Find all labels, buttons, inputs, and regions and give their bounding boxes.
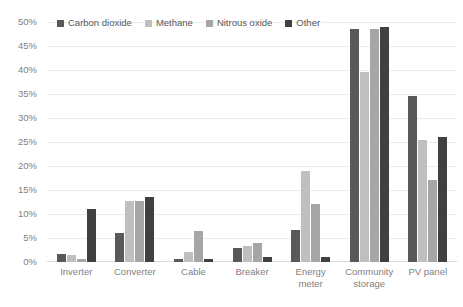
bar[interactable] bbox=[243, 246, 252, 262]
bar[interactable] bbox=[253, 243, 262, 262]
x-axis: InverterConverterCableBreakerEnergymeter… bbox=[47, 266, 457, 306]
bar[interactable] bbox=[428, 180, 437, 262]
y-axis: 50%45%40%35%30%25%20%15%10%5%0% bbox=[0, 22, 42, 262]
bar[interactable] bbox=[263, 257, 272, 262]
y-axis-tick-label: 30% bbox=[18, 113, 37, 123]
x-axis-label-line: Inverter bbox=[48, 266, 105, 278]
bar[interactable] bbox=[291, 230, 300, 262]
x-axis-tick-label: Communitystorage bbox=[340, 266, 399, 306]
x-axis-label-line: storage bbox=[341, 278, 398, 290]
bar[interactable] bbox=[350, 29, 359, 262]
x-axis-label-line: Breaker bbox=[224, 266, 281, 278]
bar[interactable] bbox=[194, 231, 203, 262]
y-axis-tick-label: 35% bbox=[18, 89, 37, 99]
x-axis-label-line: Cable bbox=[165, 266, 222, 278]
bar-chart: Carbon dioxideMethaneNitrous oxideOther … bbox=[0, 0, 463, 307]
legend-label: Methane bbox=[156, 18, 193, 28]
bar[interactable] bbox=[67, 255, 76, 262]
bar[interactable] bbox=[418, 140, 427, 262]
bar-group bbox=[281, 22, 340, 262]
bar[interactable] bbox=[370, 29, 379, 262]
legend-entry[interactable]: Carbon dioxide bbox=[57, 18, 132, 28]
bar-groups bbox=[47, 22, 457, 262]
bar[interactable] bbox=[135, 201, 144, 262]
bar[interactable] bbox=[184, 252, 193, 262]
x-axis-tick-label: Converter bbox=[106, 266, 165, 306]
bar[interactable] bbox=[204, 259, 213, 262]
x-axis-label-line: PV panel bbox=[399, 266, 456, 278]
bar-group bbox=[340, 22, 399, 262]
bar[interactable] bbox=[77, 259, 86, 262]
x-axis-tick-label: Breaker bbox=[223, 266, 282, 306]
y-axis-tick-label: 5% bbox=[23, 233, 37, 243]
legend-label: Carbon dioxide bbox=[68, 18, 132, 28]
y-axis-tick-label: 40% bbox=[18, 65, 37, 75]
bar[interactable] bbox=[311, 204, 320, 262]
y-axis-tick-label: 50% bbox=[18, 17, 37, 27]
legend-swatch-icon bbox=[145, 20, 152, 27]
bar[interactable] bbox=[145, 197, 154, 262]
bar[interactable] bbox=[125, 201, 134, 262]
x-axis-label-line: Energy bbox=[282, 266, 339, 278]
legend-swatch-icon bbox=[206, 20, 213, 27]
bar[interactable] bbox=[380, 27, 389, 262]
y-axis-tick-label: 25% bbox=[18, 137, 37, 147]
x-axis-label-line: meter bbox=[282, 278, 339, 290]
bar-group bbox=[47, 22, 106, 262]
x-axis-tick-label: Inverter bbox=[47, 266, 106, 306]
bar-group bbox=[223, 22, 282, 262]
y-axis-tick-label: 0% bbox=[23, 257, 37, 267]
bar[interactable] bbox=[408, 96, 417, 262]
legend-entry[interactable]: Methane bbox=[145, 18, 193, 28]
x-axis-tick-label: Cable bbox=[164, 266, 223, 306]
y-axis-tick-label: 15% bbox=[18, 185, 37, 195]
bar-group bbox=[164, 22, 223, 262]
bar[interactable] bbox=[233, 248, 242, 262]
x-axis-tick-label: PV panel bbox=[398, 266, 457, 306]
x-axis-tick-label: Energymeter bbox=[281, 266, 340, 306]
legend-label: Nitrous oxide bbox=[217, 18, 272, 28]
bar[interactable] bbox=[438, 137, 447, 262]
bar[interactable] bbox=[57, 254, 66, 262]
bar-group bbox=[398, 22, 457, 262]
bar[interactable] bbox=[174, 259, 183, 262]
y-axis-tick-label: 20% bbox=[18, 161, 37, 171]
plot-area bbox=[47, 22, 457, 262]
bar[interactable] bbox=[360, 72, 369, 262]
x-axis-label-line: Community bbox=[341, 266, 398, 278]
bar-group bbox=[106, 22, 165, 262]
x-axis-label-line: Converter bbox=[107, 266, 164, 278]
bar[interactable] bbox=[87, 209, 96, 262]
legend-swatch-icon bbox=[57, 20, 64, 27]
legend-entry[interactable]: Other bbox=[285, 18, 320, 28]
bar[interactable] bbox=[115, 233, 124, 262]
legend-swatch-icon bbox=[285, 20, 292, 27]
bar[interactable] bbox=[301, 171, 310, 262]
y-axis-tick-label: 10% bbox=[18, 209, 37, 219]
bar[interactable] bbox=[321, 257, 330, 262]
legend-label: Other bbox=[296, 18, 320, 28]
legend-entry[interactable]: Nitrous oxide bbox=[206, 18, 272, 28]
y-axis-tick-label: 45% bbox=[18, 41, 37, 51]
chart-legend: Carbon dioxideMethaneNitrous oxideOther bbox=[57, 16, 320, 30]
